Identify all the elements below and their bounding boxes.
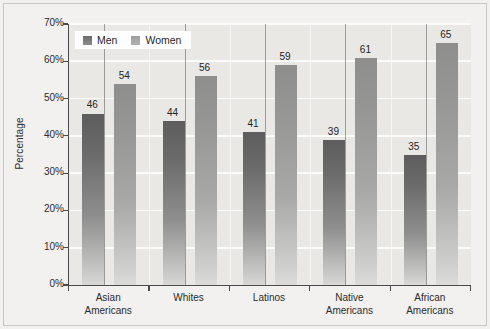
group-edge-4: [426, 24, 427, 285]
legend-label-women: Women: [145, 34, 181, 46]
value-label-men-4: 35: [397, 141, 431, 152]
category-label-line: African: [390, 292, 470, 305]
band-separator-3: [310, 24, 311, 285]
y-tick-label-30: 30%: [44, 166, 64, 177]
y-tick-label-70: 70%: [44, 17, 64, 28]
bar-men-2: [243, 132, 265, 285]
chart-legend: Men Women: [75, 31, 191, 49]
group-edge-0: [104, 24, 105, 285]
value-label-women-3: 61: [348, 44, 382, 55]
category-label-line: Latinos: [229, 292, 309, 305]
bar-women-2: [275, 65, 297, 285]
band-separator-4: [391, 24, 392, 285]
group-edge-2: [265, 24, 266, 285]
category-label-line: Native: [309, 292, 389, 305]
category-label-3: NativeAmericans: [309, 292, 389, 317]
y-tick-label-0: 0%: [50, 278, 64, 289]
y-tick-label-40: 40%: [44, 129, 64, 140]
category-label-line: Americans: [309, 305, 389, 318]
category-label-0: AsianAmericans: [68, 292, 148, 317]
bar-women-0: [114, 84, 136, 285]
category-label-2: Latinos: [229, 292, 309, 305]
category-label-1: Whites: [148, 292, 228, 305]
category-label-line: Americans: [390, 305, 470, 318]
group-edge-1: [185, 24, 186, 285]
x-tick-mark-end: [470, 286, 471, 291]
value-label-men-2: 41: [236, 118, 270, 129]
y-tick-label-60: 60%: [44, 54, 64, 65]
y-axis-title: Percentage: [14, 84, 25, 204]
legend-item-men: Men: [83, 34, 117, 46]
bar-women-4: [436, 43, 458, 285]
bar-men-1: [163, 121, 185, 285]
category-label-line: Asian: [68, 292, 148, 305]
gridline-70: [69, 23, 471, 25]
legend-label-men: Men: [97, 34, 117, 46]
bar-men-0: [82, 114, 104, 286]
plot-area: [68, 24, 471, 286]
x-tick-mark-2: [229, 286, 230, 291]
bar-women-3: [355, 58, 377, 285]
value-label-women-4: 65: [429, 29, 463, 40]
value-label-men-0: 46: [75, 99, 109, 110]
group-edge-3: [345, 24, 346, 285]
x-tick-mark-1: [148, 286, 149, 291]
value-label-women-0: 54: [107, 70, 141, 81]
y-tick-label-10: 10%: [44, 241, 64, 252]
legend-item-women: Women: [131, 34, 181, 46]
bar-women-1: [195, 76, 217, 285]
category-label-line: Americans: [68, 305, 148, 318]
value-label-women-1: 56: [188, 62, 222, 73]
x-tick-mark-3: [309, 286, 310, 291]
value-label-men-3: 39: [316, 126, 350, 137]
category-label-line: Whites: [148, 292, 228, 305]
category-label-4: AfricanAmericans: [390, 292, 470, 317]
x-tick-mark-4: [390, 286, 391, 291]
band-separator-1: [149, 24, 150, 285]
women-swatch-icon: [131, 36, 140, 45]
men-swatch-icon: [83, 36, 92, 45]
y-tick-label-20: 20%: [44, 203, 64, 214]
x-tick-mark-0: [68, 286, 69, 291]
bar-chart-figure: Percentage 70%60%50%40%30%20%10%0% 46544…: [0, 0, 490, 329]
value-label-women-2: 59: [268, 51, 302, 62]
band-separator-2: [230, 24, 231, 285]
y-tick-label-50: 50%: [44, 92, 64, 103]
value-label-men-1: 44: [156, 107, 190, 118]
bar-men-3: [323, 140, 345, 285]
bar-men-4: [404, 155, 426, 286]
